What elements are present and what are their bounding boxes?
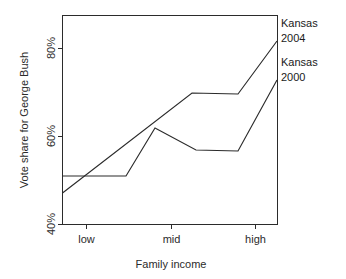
chart-container: 80% 60% 40% Vote share for George Bush l… — [0, 0, 346, 279]
series-line-kansas-2000 — [63, 80, 278, 176]
y-axis-ticks — [58, 49, 63, 225]
y-tick-label-60: 60% — [45, 125, 57, 147]
y-axis-title: Vote share for George Bush — [18, 52, 30, 188]
x-tick-label-low: low — [78, 233, 95, 245]
vote-share-line-chart: 80% 60% 40% Vote share for George Bush l… — [0, 0, 346, 279]
series-label-kansas-2004-line1: Kansas — [281, 17, 318, 29]
series-label-kansas-2004-line2: 2004 — [281, 32, 305, 44]
plot-panel-box — [63, 16, 278, 225]
x-tick-label-high: high — [245, 233, 266, 245]
x-tick-label-mid: mid — [163, 233, 181, 245]
series-line-kansas-2004 — [63, 41, 278, 193]
y-tick-label-40: 40% — [45, 213, 57, 235]
x-axis-title: Family income — [136, 258, 207, 270]
y-tick-label-80: 80% — [45, 37, 57, 59]
series-label-kansas-2000-line1: Kansas — [281, 56, 318, 68]
series-label-kansas-2000-line2: 2000 — [281, 71, 305, 83]
x-axis-ticks — [87, 225, 256, 230]
